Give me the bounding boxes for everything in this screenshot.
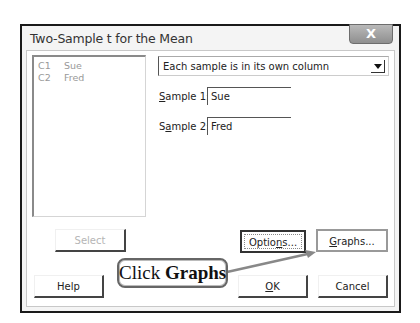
cancel-button-label: Cancel: [336, 281, 370, 292]
sample2-value: Fred: [211, 121, 232, 132]
ok-button-label: OK: [265, 281, 279, 292]
close-button[interactable]: X: [349, 24, 393, 44]
label-part: mple 2:: [172, 121, 210, 132]
label-part: Optio: [249, 237, 276, 248]
sample2-label: Sample 2:: [159, 121, 209, 132]
annotation-emphasis: Graphs: [165, 262, 226, 283]
help-button[interactable]: Help: [34, 275, 104, 298]
column-id: C1: [38, 60, 51, 71]
dropdown-selected-value: Each sample is in its own column: [163, 61, 329, 72]
dialog-title: Two-Sample t for the Mean: [30, 31, 193, 46]
sample2-input[interactable]: Fred: [207, 117, 291, 135]
label-mnemonic: O: [265, 281, 273, 292]
graphs-button[interactable]: Graphs...: [316, 229, 388, 252]
help-button-label: Help: [57, 281, 80, 292]
click-graphs-annotation: Click Graphs: [117, 258, 228, 288]
data-arrangement-dropdown[interactable]: Each sample is in its own column: [158, 56, 389, 76]
graphs-button-label: Graphs...: [329, 236, 374, 247]
sample1-label: Sample 1:: [159, 91, 209, 102]
label-part: ample 1:: [165, 91, 209, 102]
ok-button[interactable]: OK: [238, 275, 308, 298]
close-icon: X: [366, 26, 376, 41]
column-id: C2: [38, 72, 51, 83]
select-button[interactable]: Select: [55, 229, 126, 252]
label-part: raphs...: [337, 236, 375, 247]
chevron-down-icon[interactable]: [371, 60, 385, 73]
column-name: Fred: [64, 72, 84, 83]
sample1-input[interactable]: Sue: [207, 87, 291, 105]
cancel-button[interactable]: Cancel: [318, 275, 388, 298]
variables-listbox[interactable]: C1 Sue C2 Fred: [32, 55, 146, 217]
options-button[interactable]: Options...: [240, 230, 306, 253]
select-button-label: Select: [75, 235, 106, 246]
options-button-label: Options...: [249, 237, 297, 248]
label-part: s...: [282, 237, 297, 248]
sample1-value: Sue: [211, 91, 230, 102]
label-mnemonic: G: [329, 236, 337, 247]
column-name: Sue: [64, 60, 82, 71]
annotation-text: Click: [119, 262, 165, 283]
title-bar: Two-Sample t for the Mean X: [22, 26, 399, 50]
label-part: K: [273, 281, 280, 292]
